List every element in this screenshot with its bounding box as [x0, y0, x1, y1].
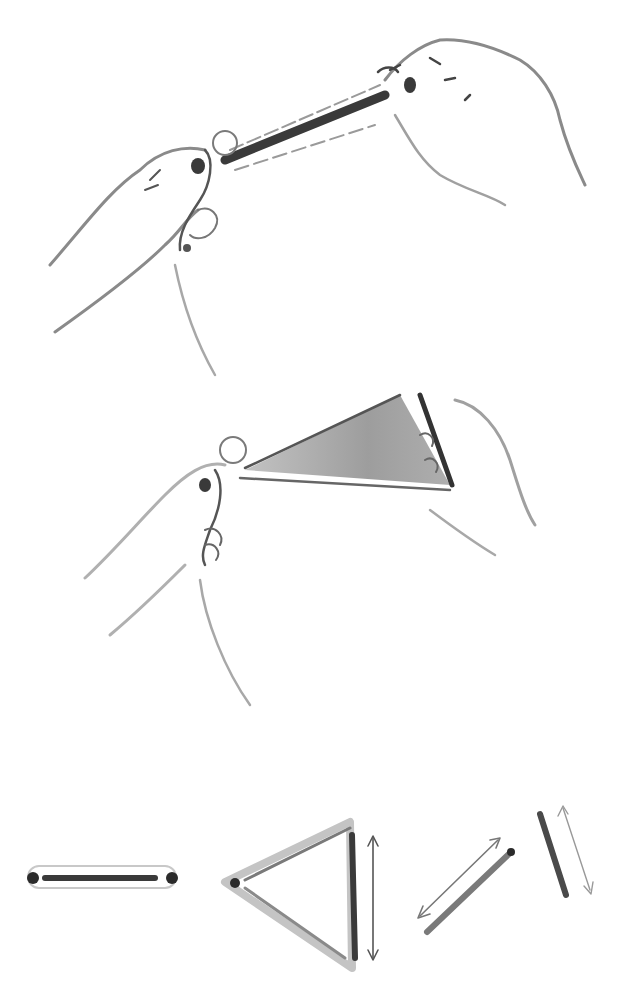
fold-sequence-diagram: [0, 790, 618, 989]
diagonal-strip-shape: [427, 848, 515, 932]
ring-handle: [220, 437, 246, 463]
step-1-illustration: [0, 0, 618, 380]
flat-band-shape: [27, 866, 178, 888]
step-2-illustration: [0, 360, 618, 720]
hands-stretching-band-figure: [0, 0, 618, 380]
vertical-double-arrow-icon: [368, 836, 378, 960]
step-3-diagram: [0, 790, 618, 989]
triangle-fabric: [245, 395, 450, 485]
tilted-strip-shape: [540, 814, 566, 895]
ring-handle: [213, 131, 237, 155]
triangle-shape: [225, 822, 355, 968]
hands-opening-triangle-figure: [0, 360, 618, 720]
